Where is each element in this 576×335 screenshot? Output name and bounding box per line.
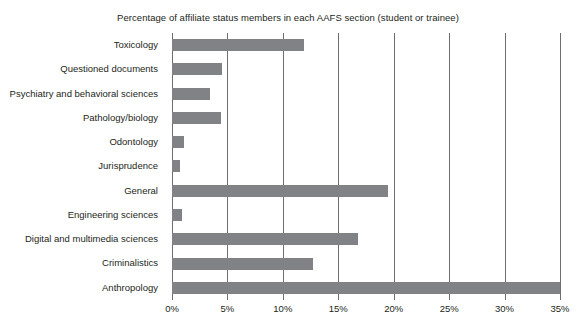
plot-area — [172, 33, 560, 300]
bar — [172, 160, 180, 172]
bar-row — [172, 82, 560, 106]
bar — [172, 88, 210, 100]
gridline-35pct — [560, 33, 561, 300]
bar-row — [172, 57, 560, 81]
y-axis-label: Psychiatry and behavioral sciences — [10, 82, 158, 106]
bar — [172, 282, 560, 294]
bar — [172, 233, 358, 245]
y-axis-label: Odontology — [109, 130, 158, 154]
y-axis-label: Anthropology — [102, 276, 158, 300]
bar — [172, 209, 182, 221]
x-axis-label: 15% — [329, 303, 348, 314]
bars-container — [172, 33, 560, 300]
bar — [172, 258, 313, 270]
bar-row — [172, 154, 560, 178]
y-axis-label: Engineering sciences — [68, 203, 158, 227]
x-axis-label: 20% — [384, 303, 403, 314]
bar-row — [172, 130, 560, 154]
y-axis-label: Pathology/biology — [83, 106, 158, 130]
x-axis-label: 5% — [221, 303, 235, 314]
bar — [172, 185, 388, 197]
bar-row — [172, 276, 560, 300]
x-axis-label: 35% — [550, 303, 569, 314]
bar-row — [172, 251, 560, 275]
y-axis-label: Questioned documents — [60, 57, 158, 81]
bar — [172, 39, 304, 51]
y-axis-label: General — [124, 179, 158, 203]
bar-row — [172, 203, 560, 227]
bar-chart: Percentage of affiliate status members i… — [0, 0, 576, 335]
chart-title: Percentage of affiliate status members i… — [0, 12, 576, 23]
x-axis-label: 25% — [440, 303, 459, 314]
bar — [172, 112, 221, 124]
y-axis-label: Criminalistics — [102, 251, 158, 275]
x-axis-label: 10% — [273, 303, 292, 314]
x-axis-label: 30% — [495, 303, 514, 314]
y-axis-label: Digital and multimedia sciences — [25, 227, 158, 251]
y-axis-category-labels: ToxicologyQuestioned documentsPsychiatry… — [0, 33, 166, 300]
bar-row — [172, 33, 560, 57]
bar-row — [172, 227, 560, 251]
x-axis-tick-labels: 0%5%10%15%20%25%30%35% — [0, 303, 576, 321]
y-axis-label: Jurisprudence — [98, 154, 158, 178]
bar — [172, 136, 184, 148]
x-axis-label: 0% — [165, 303, 179, 314]
y-axis-label: Toxicology — [114, 33, 158, 57]
bar — [172, 63, 222, 75]
bar-row — [172, 106, 560, 130]
bar-row — [172, 179, 560, 203]
